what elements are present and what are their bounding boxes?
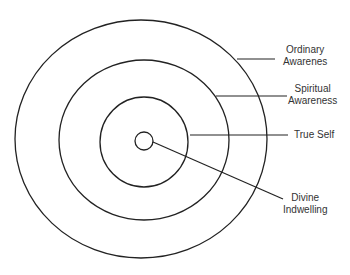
label-line2: Indwelling: [283, 204, 327, 216]
spiritual-awareness-circle: [59, 60, 229, 220]
label-line2: Awarenes: [283, 56, 327, 68]
label-line1: Ordinary: [283, 44, 327, 56]
label-line1: Divine: [283, 192, 327, 204]
label-line1: True Self: [294, 129, 334, 141]
label-line2: Awareness: [288, 95, 337, 107]
divine-leader-line: [153, 142, 283, 199]
divine-indwelling-circle: [135, 132, 153, 150]
true-self-circle: [100, 97, 188, 187]
label-divine-indwelling: Divine Indwelling: [283, 192, 327, 216]
label-ordinary-awareness: Ordinary Awarenes: [283, 44, 327, 68]
label-line1: Spiritual: [288, 83, 337, 95]
label-true-self: True Self: [294, 129, 334, 141]
label-spiritual-awareness: Spiritual Awareness: [288, 83, 337, 107]
